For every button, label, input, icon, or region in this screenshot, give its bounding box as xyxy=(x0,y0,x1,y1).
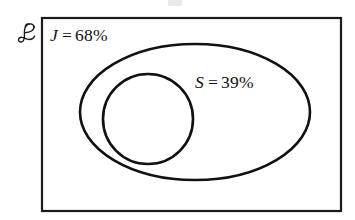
universal-set-symbol xyxy=(15,21,39,45)
scan-artifact xyxy=(168,0,182,6)
set-s-variable: S xyxy=(195,72,205,92)
set-j-variable: J xyxy=(50,25,59,45)
set-j-value: 68% xyxy=(75,25,108,45)
set-s-operator: = xyxy=(205,72,221,92)
set-s-value: 39% xyxy=(221,72,254,92)
script-capital-e-icon xyxy=(15,21,39,45)
set-s-label: S=39% xyxy=(195,74,254,92)
set-j-operator: = xyxy=(59,25,75,45)
venn-diagram-figure: J=68% S=39% xyxy=(0,0,355,220)
set-j-label: J=68% xyxy=(50,27,108,45)
